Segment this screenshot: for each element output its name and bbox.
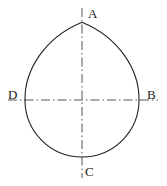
- vertex-label-b: B: [147, 88, 156, 101]
- vertex-label-c: C: [85, 165, 94, 178]
- teardrop-diagram-svg: [0, 0, 167, 186]
- geometric-figure: A B C D: [0, 0, 167, 186]
- upper-left-flank-arc: [25, 22, 82, 100]
- upper-right-flank-arc: [83, 22, 140, 100]
- vertex-label-d: D: [8, 88, 17, 101]
- vertex-label-a: A: [88, 7, 97, 20]
